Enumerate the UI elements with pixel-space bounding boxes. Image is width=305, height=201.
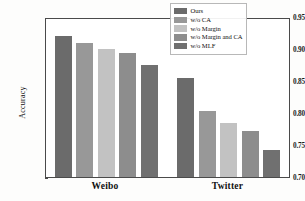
legend-item: w/o Margin	[174, 25, 242, 33]
chart-figure: Accuracy 0.700.750.800.850.900.95 WeiboT…	[0, 0, 305, 201]
chart-legend: Oursw/o CAw/o Marginw/o Margin and CAw/o…	[170, 3, 247, 55]
legend-item-label: w/o MLF	[191, 42, 216, 50]
bar	[55, 36, 72, 177]
legend-swatch-icon	[174, 25, 187, 32]
legend-swatch-icon	[174, 8, 187, 15]
legend-item-label: w/o CA	[191, 16, 211, 24]
legend-swatch-icon	[174, 17, 187, 24]
legend-item: w/o CA	[174, 16, 242, 24]
bar	[177, 78, 194, 177]
legend-item: w/o MLF	[174, 42, 242, 50]
bar	[263, 150, 280, 177]
x-axis-tick-label: Twitter	[212, 181, 243, 191]
bar	[199, 111, 216, 177]
y-axis-tick-mark	[45, 178, 48, 179]
bar	[119, 53, 136, 177]
bar	[242, 131, 259, 177]
bar	[76, 43, 93, 177]
legend-item-label: Ours	[191, 7, 204, 15]
legend-swatch-icon	[174, 43, 187, 50]
bar	[141, 65, 158, 177]
bar	[220, 123, 237, 177]
legend-item: w/o Margin and CA	[174, 33, 242, 41]
legend-swatch-icon	[174, 34, 187, 41]
bar	[98, 49, 115, 177]
plot-area	[45, 18, 290, 178]
legend-item-label: w/o Margin and CA	[191, 33, 243, 41]
legend-item: Ours	[174, 7, 242, 15]
legend-item-label: w/o Margin	[191, 25, 221, 33]
y-axis-label: Accuracy	[18, 63, 27, 143]
x-axis-tick-label: Weibo	[92, 181, 119, 191]
